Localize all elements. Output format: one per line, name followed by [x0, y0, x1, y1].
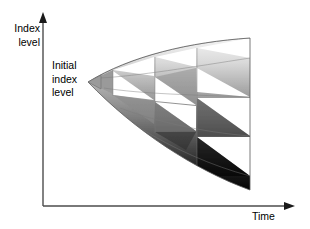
fan-chart-figure: Index level Initial index level Time: [0, 0, 310, 229]
uncertainty-cone: [88, 38, 250, 190]
y-axis-label: Index level: [4, 22, 40, 49]
chart-canvas: [0, 0, 310, 229]
x-axis-label: Time: [252, 210, 288, 224]
y-axis-arrow-icon: [39, 12, 47, 23]
initial-index-level-label: Initial index level: [52, 59, 92, 100]
x-axis-arrow-icon: [284, 202, 295, 210]
